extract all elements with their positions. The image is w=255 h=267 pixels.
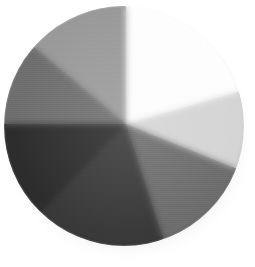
image-title: Conical gradient disc (0, 0, 1, 1)
image-canvas: Conical gradient disc A circular disc fi… (0, 0, 255, 267)
disc-container (4, 6, 244, 246)
conic-gradient-soften-layer (4, 6, 244, 246)
image-description: A circular disc filled with an angular (… (0, 0, 1, 1)
gradient-disc (4, 6, 244, 246)
